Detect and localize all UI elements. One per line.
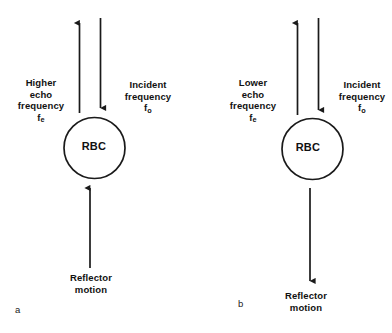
reflector-motion-label-b: Reflector motion [261,290,351,313]
incident-symbol-a: fo [144,102,152,113]
echo-symbol-subscript-a: e [41,115,45,124]
incident-symbol-subscript-b: o [361,106,366,115]
echo-label-line3: frequency [230,100,276,111]
reflector-label-line2: motion [75,284,107,295]
panel-b-graphics [196,0,392,333]
rbc-label-a: RBC [63,140,125,152]
echo-label-line1: Lower [239,77,267,88]
echo-frequency-label-b: Lower echo frequency fe [216,77,290,124]
rbc-label-b: RBC [277,141,339,153]
panel-b: Lower echo frequency fe Incident frequen… [196,0,392,333]
incident-symbol-subscript-a: o [147,106,152,115]
panel-letter-a: a [15,304,20,315]
echo-symbol-a: fe [37,112,44,123]
reflector-motion-label-a: Reflector motion [46,272,136,295]
reflector-label-line2: motion [290,302,322,313]
echo-label-line2: echo [242,89,265,100]
echo-symbol-subscript-b: e [253,115,257,124]
reflector-label-line1: Reflector [285,290,327,301]
echo-label-line1: Higher [26,77,57,88]
echo-label-line2: echo [30,89,53,100]
doppler-figure: Higher echo frequency fe Incident freque… [0,0,392,333]
incident-symbol-b: fo [358,102,366,113]
incident-frequency-label-a: Incident frequency fo [110,79,186,115]
incident-frequency-label-b: Incident frequency fo [324,79,392,115]
echo-frequency-label-a: Higher echo frequency fe [4,77,78,124]
echo-symbol-b: fe [249,112,256,123]
echo-label-line3: frequency [18,100,64,111]
panel-a: Higher echo frequency fe Incident freque… [0,0,196,333]
incident-label-line2: frequency [339,91,385,102]
incident-label-line1: Incident [343,79,380,90]
incident-label-line1: Incident [129,79,166,90]
reflector-label-line1: Reflector [70,272,112,283]
panel-letter-b: b [238,298,243,309]
incident-label-line2: frequency [125,91,171,102]
